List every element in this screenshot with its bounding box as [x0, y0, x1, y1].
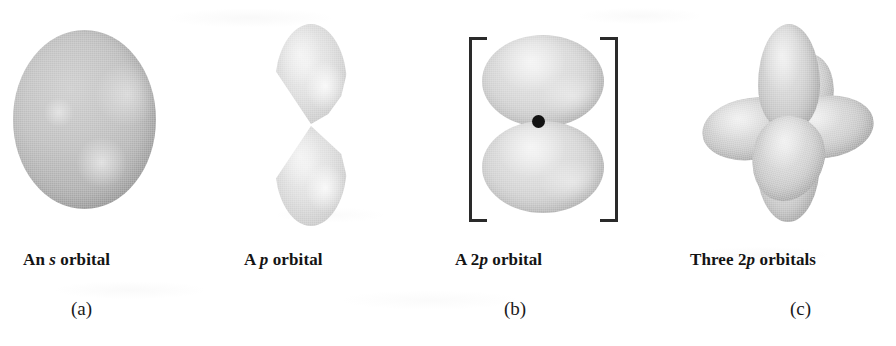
- two-p-lower-lobe: [482, 121, 604, 213]
- two-p-orbital-lobes: [482, 35, 604, 213]
- caption-three-two-p-orbitals: Three 2p orbitals: [690, 250, 816, 270]
- sublabel-c: (c): [790, 298, 811, 320]
- caption-prefix: A 2: [455, 250, 479, 269]
- halftone-grain-overlay: [275, 126, 347, 226]
- s-orbital-sphere: [13, 30, 156, 209]
- caption-suffix: orbital: [56, 250, 110, 269]
- halftone-grain-overlay: [275, 24, 347, 124]
- sublabel-a: (a): [71, 298, 92, 320]
- caption-prefix: An: [23, 250, 49, 269]
- caption-p-orbital: A p orbital: [244, 250, 323, 270]
- halftone-grain-overlay: [758, 24, 820, 130]
- caption-italic-symbol: p: [747, 250, 756, 269]
- p-orbital-upper-lobe: [275, 24, 347, 124]
- p-orbital-dumbbell: [272, 24, 350, 226]
- caption-suffix: orbital: [488, 250, 542, 269]
- cluster-lobe-up: [758, 24, 820, 130]
- caption-two-p-orbital: A 2p orbital: [455, 250, 542, 270]
- caption-s-orbital: An s orbital: [23, 250, 110, 270]
- caption-italic-symbol: p: [479, 250, 488, 269]
- caption-suffix: orbitals: [755, 250, 816, 269]
- caption-prefix: Three 2: [690, 250, 747, 269]
- caption-suffix: orbital: [268, 250, 322, 269]
- halftone-grain-overlay: [482, 35, 604, 127]
- sublabel-b: (b): [504, 298, 526, 320]
- halftone-grain-overlay: [13, 30, 156, 209]
- nucleus-dot: [532, 115, 545, 128]
- two-p-upper-lobe: [482, 35, 604, 127]
- caption-italic-symbol: s: [49, 250, 56, 269]
- figure-canvas: An s orbital A p orbital A 2p orbital Th…: [0, 0, 896, 346]
- right-square-bracket: [600, 37, 618, 222]
- p-orbital-lower-lobe: [275, 126, 347, 226]
- three-two-p-orbital-cluster: [700, 22, 875, 222]
- caption-prefix: A: [244, 250, 260, 269]
- halftone-grain-overlay: [482, 121, 604, 213]
